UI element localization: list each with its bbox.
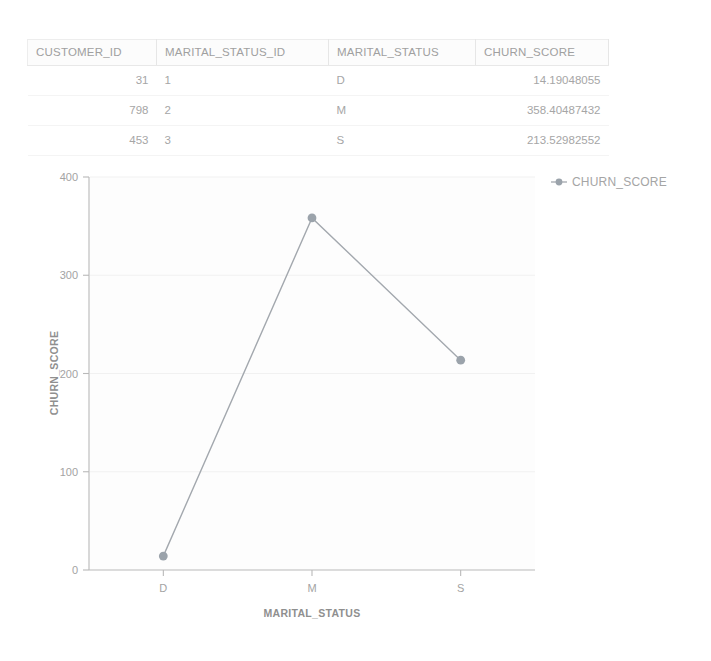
cell-marital-status: S xyxy=(329,126,476,156)
y-tick-label: 100 xyxy=(60,466,78,478)
x-tick-label: M xyxy=(307,582,316,594)
legend-label-churn-score: CHURN_SCORE xyxy=(572,175,667,189)
data-point xyxy=(159,552,168,561)
x-axis-ticks: DMS xyxy=(159,570,464,594)
x-tick-label: S xyxy=(457,582,464,594)
table-header-row: CUSTOMER_ID MARITAL_STATUS_ID MARITAL_ST… xyxy=(28,40,609,66)
cell-marital-status: M xyxy=(329,96,476,126)
y-tick-label: 300 xyxy=(60,269,78,281)
table-row[interactable]: 31 1 D 14.19048055 xyxy=(28,66,609,96)
table-body: 31 1 D 14.19048055 798 2 M 358.40487432 … xyxy=(28,66,609,156)
cell-churn-score: 14.19048055 xyxy=(476,66,609,96)
chart-legend[interactable]: CHURN_SCORE xyxy=(551,175,667,189)
column-header-marital-status[interactable]: MARITAL_STATUS xyxy=(329,40,476,66)
y-tick-label: 200 xyxy=(60,368,78,380)
cell-customer-id: 453 xyxy=(28,126,157,156)
column-header-churn-score[interactable]: CHURN_SCORE xyxy=(476,40,609,66)
cell-churn-score: 213.52982552 xyxy=(476,126,609,156)
table-row[interactable]: 798 2 M 358.40487432 xyxy=(28,96,609,126)
data-point xyxy=(308,214,317,223)
y-tick-label: 400 xyxy=(60,171,78,183)
cell-customer-id: 798 xyxy=(28,96,157,126)
legend-marker-icon xyxy=(556,179,563,186)
y-tick-label: 0 xyxy=(72,564,78,576)
data-point xyxy=(456,356,465,365)
cell-churn-score: 358.40487432 xyxy=(476,96,609,126)
y-axis-title: CHURN_SCORE xyxy=(48,331,60,415)
y-axis-ticks: 0100200300400 xyxy=(60,171,89,576)
cell-marital-status-id: 1 xyxy=(157,66,329,96)
cell-marital-status-id: 2 xyxy=(157,96,329,126)
result-table: CUSTOMER_ID MARITAL_STATUS_ID MARITAL_ST… xyxy=(27,39,609,156)
column-header-customer-id[interactable]: CUSTOMER_ID xyxy=(28,40,157,66)
line-chart: 0100200300400 DMS CHURN_SCORE MARITAL_ST… xyxy=(0,160,711,640)
cell-marital-status-id: 3 xyxy=(157,126,329,156)
cell-marital-status: D xyxy=(329,66,476,96)
x-tick-label: D xyxy=(159,582,167,594)
cell-customer-id: 31 xyxy=(28,66,157,96)
table-header: CUSTOMER_ID MARITAL_STATUS_ID MARITAL_ST… xyxy=(28,40,609,66)
column-header-marital-status-id[interactable]: MARITAL_STATUS_ID xyxy=(157,40,329,66)
x-axis-title: MARITAL_STATUS xyxy=(264,607,361,619)
table-row[interactable]: 453 3 S 213.52982552 xyxy=(28,126,609,156)
